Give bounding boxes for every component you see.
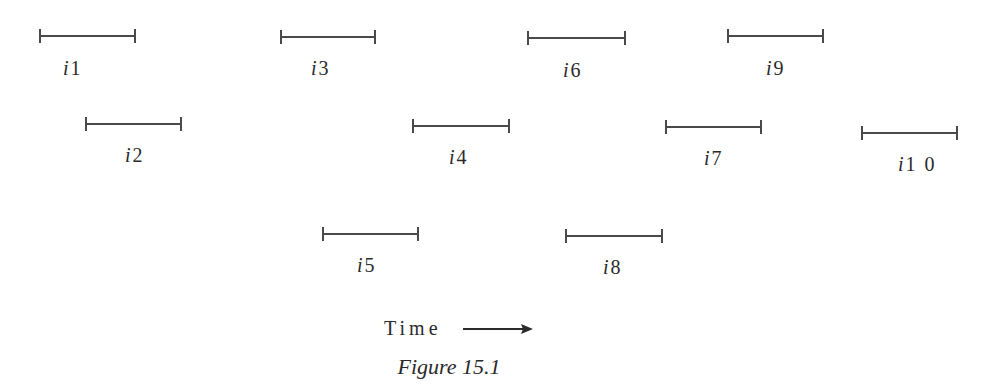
interval-end-tick [508,119,510,133]
interval-bar [39,35,136,37]
interval-start-tick [322,227,324,241]
interval-label-i2: i2 [125,145,145,165]
interval-bar [280,36,376,38]
interval-start-tick [85,117,87,131]
interval-i9 [727,29,824,43]
interval-label-prefix: i [563,59,571,81]
interval-bar [85,123,182,125]
interval-start-tick [280,30,282,44]
interval-end-tick [374,30,376,44]
interval-label-prefix: i [357,254,365,276]
interval-label-number: 5 [365,254,377,276]
interval-end-tick [624,31,626,45]
interval-i3 [280,30,376,44]
interval-end-tick [134,29,136,43]
interval-label-prefix: i [125,144,133,166]
interval-end-tick [417,227,419,241]
interval-label-number: 7 [712,147,724,169]
interval-label-number: 9 [774,57,786,79]
interval-label-prefix: i [704,147,712,169]
interval-end-tick [956,126,958,140]
interval-label-number: 3 [319,57,331,79]
interval-start-tick [39,29,41,43]
interval-start-tick [527,31,529,45]
interval-end-tick [760,120,762,134]
interval-label-i4: i4 [449,147,469,167]
interval-label-i5: i5 [357,255,377,275]
interval-bar [527,37,626,39]
interval-label-i8: i8 [603,257,623,277]
interval-label-i7: i7 [704,148,724,168]
interval-end-tick [822,29,824,43]
interval-start-tick [412,119,414,133]
interval-label-number: 6 [571,59,583,81]
interval-i8 [565,229,663,243]
interval-i7 [665,120,762,134]
interval-start-tick [565,229,567,243]
interval-bar [565,235,663,237]
interval-label-i9: i9 [766,58,786,78]
interval-label-number: 1 0 [906,153,937,175]
interval-i1 [39,29,136,43]
interval-label-prefix: i [311,57,319,79]
time-axis-label: Time [384,318,442,338]
interval-end-tick [180,117,182,131]
interval-label-number: 1 [71,57,83,79]
interval-label-i6: i6 [563,60,583,80]
interval-label-prefix: i [449,146,457,168]
figure-caption: Figure 15.1 [0,356,898,378]
interval-bar [861,132,958,134]
interval-label-number: 2 [133,144,145,166]
interval-i2 [85,117,182,131]
interval-label-i3: i3 [311,58,331,78]
interval-label-prefix: i [766,57,774,79]
interval-diagram: i1i2i3i4i5i6i7i8i9i1 0 Time Figure 15.1 [0,0,1001,389]
interval-start-tick [665,120,667,134]
interval-i6 [527,31,626,45]
interval-i4 [412,119,510,133]
arrow-right-icon [463,322,533,336]
interval-bar [665,126,762,128]
interval-bar [727,35,824,37]
interval-label-prefix: i [898,153,906,175]
interval-label-prefix: i [63,57,71,79]
interval-label-prefix: i [603,256,611,278]
interval-bar [412,125,510,127]
interval-start-tick [861,126,863,140]
interval-end-tick [661,229,663,243]
interval-label-i10: i1 0 [898,154,937,174]
interval-i10 [861,126,958,140]
interval-start-tick [727,29,729,43]
interval-label-i1: i1 [63,58,83,78]
interval-label-number: 4 [457,146,469,168]
interval-label-number: 8 [611,256,623,278]
interval-i5 [322,227,419,241]
interval-bar [322,233,419,235]
